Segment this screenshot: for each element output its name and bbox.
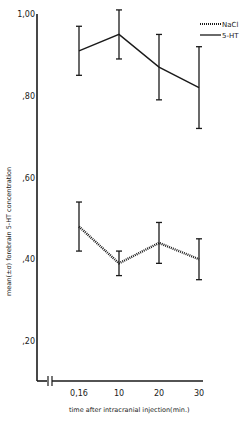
error-bar	[156, 34, 162, 99]
x-tick-label: 0,16	[70, 389, 88, 398]
legend-label: NaCl	[222, 21, 238, 29]
y-axis-title: mean(±σ) forebrain 5-HT concentration	[5, 167, 13, 296]
y-tick-label: 1,00	[17, 10, 35, 19]
legend-item-5ht: 5-HT	[200, 32, 239, 40]
x-tick-label: 10	[114, 389, 124, 398]
series-line	[79, 34, 199, 87]
y-tick-label: ,40	[22, 255, 35, 264]
series-layer	[76, 10, 202, 280]
x-axis	[37, 376, 203, 386]
error-bar	[76, 202, 82, 251]
series-line	[79, 227, 199, 264]
legend-item-nacl: NaCl	[200, 21, 238, 29]
x-tick-label: 30	[194, 389, 204, 398]
error-bar	[76, 26, 82, 75]
series-nacl	[76, 202, 202, 280]
legend: NaCl 5-HT	[200, 21, 239, 40]
error-bar	[196, 47, 202, 129]
legend-label: 5-HT	[222, 32, 239, 40]
x-tick-label: 20	[154, 389, 164, 398]
chart: 1,00,80,60,40,20 0,16102030 mean(±σ) for…	[0, 0, 251, 422]
error-bar	[156, 222, 162, 263]
y-tick-label: ,60	[22, 174, 35, 183]
series-5ht	[76, 10, 202, 129]
y-tick-labels: 1,00,80,60,40,20	[17, 10, 35, 346]
x-tick-labels: 0,16102030	[70, 389, 204, 398]
y-tick-label: ,20	[22, 337, 35, 346]
x-axis-title: time after intracranial injection(min.)	[69, 406, 190, 414]
y-tick-label: ,80	[22, 92, 35, 101]
error-bar	[116, 10, 122, 59]
